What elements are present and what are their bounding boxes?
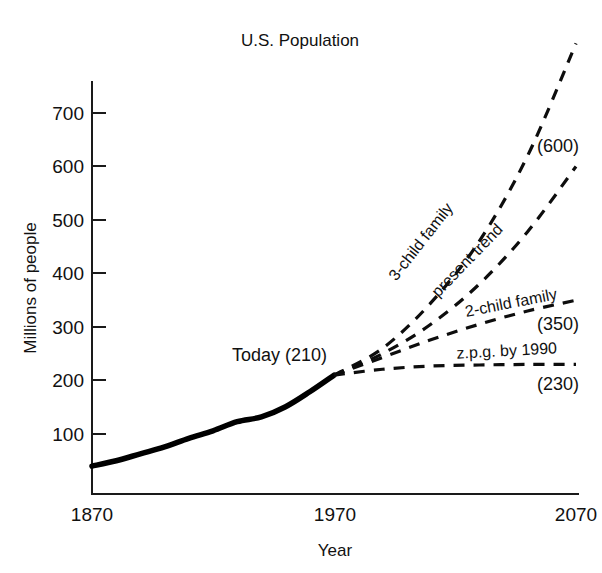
x-tick-label-1970: 1970	[314, 504, 356, 525]
annotation-today: Today (210)	[232, 345, 327, 365]
chart-title: U.S. Population	[241, 31, 359, 50]
y-tick-label-400: 400	[52, 263, 84, 284]
endpoint-label-present-trend: (600)	[537, 136, 579, 156]
y-tick-label-500: 500	[52, 210, 84, 231]
chart-container: U.S. Population 700 600 500 400 300 200 …	[0, 0, 602, 573]
x-tick-label-1870: 1870	[71, 504, 113, 525]
y-tick-label-100: 100	[52, 424, 84, 445]
y-tick-label-300: 300	[52, 317, 84, 338]
y-tick-label-200: 200	[52, 370, 84, 391]
x-tick-label-2070: 2070	[555, 504, 597, 525]
y-tick-label-600: 600	[52, 156, 84, 177]
y-tick-label-700: 700	[52, 103, 84, 124]
y-axis-title: Millions of people	[21, 222, 40, 353]
endpoint-label-zpg: (230)	[537, 374, 579, 394]
x-axis-title: Year	[318, 541, 353, 560]
population-chart-svg: U.S. Population 700 600 500 400 300 200 …	[0, 0, 602, 573]
endpoint-label-2-child-family: (350)	[537, 314, 579, 334]
chart-background	[0, 0, 602, 573]
